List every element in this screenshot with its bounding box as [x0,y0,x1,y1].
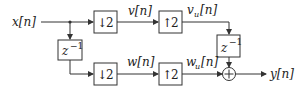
upsampler-bottom: ↑ 2 [159,63,182,85]
downsampler-bottom: ↓ 2 [94,63,117,85]
delay-block-output: z −1 [217,35,242,57]
wire-delay-to-down [70,60,93,74]
svg-text:z: z [220,41,228,55]
block-diagram: x[n] z −1 ↓ 2 ↓ 2 v[n] w[n] ↑ 2 ↑ 2 [0,0,307,92]
svg-text:2: 2 [171,16,179,30]
label-v: v[n] [128,4,152,18]
input-label: x[n] [12,15,36,29]
output-label: y[n] [269,67,294,81]
svg-text:z: z [61,44,69,58]
svg-text:[n]: [n] [201,55,218,69]
label-wu: w u [n] [186,55,218,71]
svg-text:2: 2 [106,68,114,82]
svg-text:u: u [195,62,200,71]
svg-text:2: 2 [106,16,114,30]
svg-text:[n]: [n] [200,3,217,17]
label-vu: v u [n] [187,3,217,19]
svg-text:2: 2 [171,68,179,82]
svg-text:u: u [194,10,199,19]
delay-block-input: z −1 [58,40,83,60]
svg-text:−1: −1 [229,37,242,47]
upsampler-top: ↑ 2 [159,11,182,33]
wire-vu [182,22,229,34]
label-w: w[n] [127,55,155,69]
svg-text:v: v [187,3,194,17]
svg-text:−1: −1 [70,41,83,51]
downsampler-top: ↓ 2 [94,11,117,33]
adder [223,68,236,81]
